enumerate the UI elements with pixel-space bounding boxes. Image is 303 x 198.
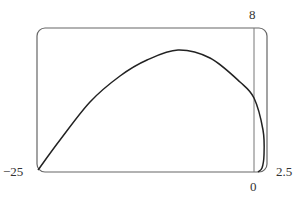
y-max-label: 8 <box>249 8 256 21</box>
viewing-window-frame <box>37 28 267 172</box>
parametric-curve <box>38 50 264 172</box>
plot-area <box>0 0 303 198</box>
x-max-label: 2.5 <box>276 165 292 178</box>
x-min-label: −25 <box>3 165 23 178</box>
x-origin-label: 0 <box>250 180 257 193</box>
